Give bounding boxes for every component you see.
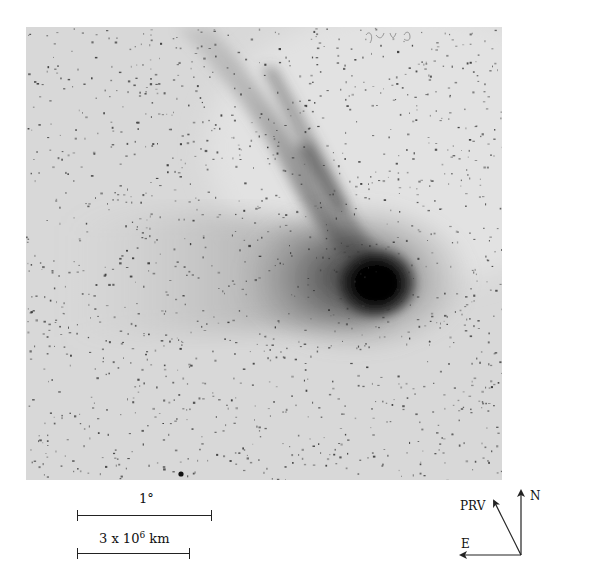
physical-scale-prefix: 3 x 10 [99, 531, 139, 546]
physical-scale-label: 3 x 106 km [99, 530, 170, 546]
comet-nucleus [330, 243, 422, 323]
bright-star [178, 471, 183, 476]
orientation-compass: N E PRV [440, 485, 560, 585]
north-label: N [530, 489, 541, 503]
comet-image [26, 27, 502, 480]
prv-arrow-icon [494, 501, 521, 555]
angular-scale-label: 1° [139, 491, 154, 506]
physical-scale-unit: km [145, 531, 169, 546]
east-label: E [461, 537, 470, 551]
angular-scale-bar [77, 515, 212, 516]
comet-photograph [26, 27, 502, 480]
physical-scale-bar [77, 553, 190, 554]
prv-label: PRV [460, 499, 485, 513]
compass-arrows [440, 485, 560, 585]
